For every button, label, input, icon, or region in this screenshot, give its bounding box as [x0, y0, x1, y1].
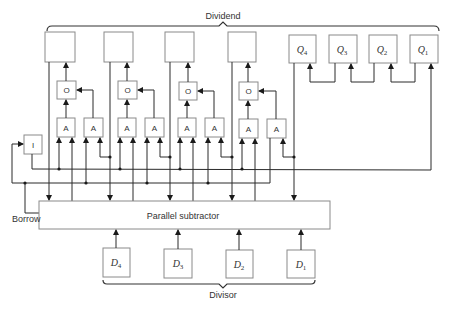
quotient-registers: Q4 Q3 Q2 Q1 [289, 35, 438, 63]
svg-text:A: A [246, 125, 252, 134]
svg-text:A: A [124, 124, 130, 133]
subtractor-label: Parallel subtractor [147, 211, 220, 221]
svg-text:O: O [245, 87, 251, 96]
shift-feed-wires [100, 138, 296, 159]
remainder-register-1 [228, 32, 256, 62]
quotient-shift-wires [310, 63, 431, 170]
divisor-registers: D4 D3 D2 D1 [103, 248, 315, 278]
svg-text:I: I [32, 141, 34, 150]
svg-text:A: A [184, 124, 190, 133]
svg-text:A: A [91, 124, 97, 133]
remainder-register-4 [45, 32, 75, 62]
divisor-label: Divisor [209, 290, 237, 300]
dividend-label: Dividend [205, 11, 240, 21]
divisor-brace: Divisor [103, 280, 315, 300]
dividend-brace: Dividend [47, 11, 439, 31]
remainder-register-2 [165, 32, 194, 62]
inverter: I [24, 135, 42, 154]
svg-text:O: O [185, 87, 191, 96]
svg-text:A: A [152, 124, 158, 133]
remainder-register-3 [104, 32, 133, 62]
divisor-wires [116, 230, 301, 250]
svg-text:A: A [63, 124, 69, 133]
division-circuit-diagram: Dividend Q4 Q3 Q2 Q1 O O O O [0, 0, 452, 309]
svg-text:A: A [274, 125, 280, 134]
and-gates: A A A A A A A A [57, 118, 286, 138]
parallel-subtractor: Parallel subtractor [39, 201, 330, 229]
borrow-label: Borrow [12, 214, 41, 224]
svg-text:O: O [124, 86, 130, 95]
svg-text:A: A [212, 124, 218, 133]
svg-text:O: O [63, 86, 69, 95]
remainder-registers [45, 32, 256, 62]
